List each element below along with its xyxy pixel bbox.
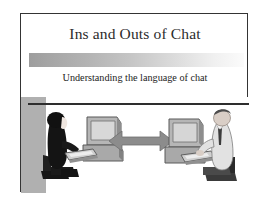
slide-canvas: Ins and Outs of Chat Understanding the l… <box>0 0 266 208</box>
page-title: Ins and Outs of Chat <box>21 25 249 43</box>
right-person-group <box>196 109 237 181</box>
slide-picture <box>21 97 249 193</box>
presentation-slide[interactable]: Ins and Outs of Chat Understanding the l… <box>20 13 248 192</box>
slide-subtitle: Understanding the language of chat <box>21 72 249 83</box>
double-headed-arrow <box>109 131 173 151</box>
gradient-divider-bar <box>29 53 244 67</box>
left-person-group <box>41 112 79 179</box>
